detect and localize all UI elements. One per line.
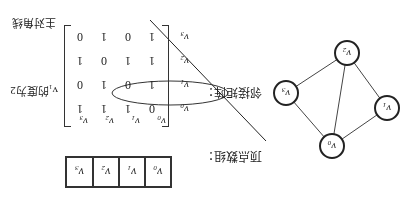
vertex-array-cell: v1: [118, 158, 144, 186]
matrix-cell: 1: [70, 53, 90, 68]
graph-node-v1: v1: [374, 95, 400, 121]
graph-node-v3: v3: [273, 80, 299, 106]
vertex-array-label: 顶点数组：: [202, 148, 262, 166]
matrix-cell: 0: [70, 77, 90, 92]
diagram-canvas: v0 v1 v2 v3 顶点数组： v0 v1 v2 v3 邻接矩阵： v0 v…: [0, 0, 414, 208]
graph-node-v0: v0: [319, 133, 345, 159]
adjacency-matrix: 0 1 1 1 1 0 1 0 1 1 0 1 1 0 1 0: [70, 20, 162, 116]
main-diagonal-annotation: 主对角线: [12, 16, 56, 32]
vertex-array-cell: v0: [144, 158, 170, 186]
degree-annotation: v₁的度为2: [10, 84, 58, 100]
matrix-cell: 1: [118, 101, 138, 116]
matrix-left-bracket: [162, 25, 169, 127]
adjacency-matrix-label: 邻接矩阵：: [202, 84, 262, 102]
matrix-cell: 1: [142, 77, 162, 92]
matrix-cell: 1: [142, 29, 162, 44]
matrix-cell: 0: [70, 29, 90, 44]
matrix-cell: 1: [118, 53, 138, 68]
vertex-array: v0 v1 v2 v3: [65, 156, 172, 188]
graph-node-v2: v2: [334, 40, 360, 66]
graph-edges: [0, 0, 414, 208]
matrix-cell: 0: [118, 29, 138, 44]
vertex-array-cell: v2: [92, 158, 118, 186]
matrix-cell: 1: [142, 53, 162, 68]
matrix-cell: 1: [94, 101, 114, 116]
matrix-cell: 0: [118, 77, 138, 92]
matrix-cell: 1: [70, 101, 90, 116]
matrix-cell: 0: [94, 53, 114, 68]
matrix-cell: 1: [94, 77, 114, 92]
vertex-array-cell: v3: [65, 158, 92, 186]
matrix-column-headers: v0 v1 v2 v3: [66, 114, 166, 128]
matrix-row-headers: v0 v1 v2 v3: [171, 16, 189, 116]
matrix-cell: 0: [142, 101, 162, 116]
matrix-cell: 1: [94, 29, 114, 44]
